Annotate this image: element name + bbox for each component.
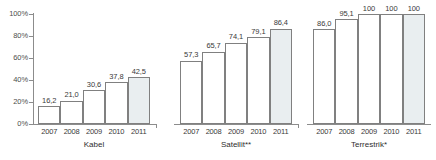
bar[interactable] [202,52,224,124]
bar-value-label: 37,8 [109,73,123,81]
bar-value-label: 16,2 [42,97,56,105]
bar-group-kabel: 16,221,030,637,842,5 [38,14,150,124]
x-axis-tick-label: 2010 [105,126,127,137]
bar-slot: 37,8 [105,14,127,124]
group-caption-terrestrik: Terrestrik* [313,140,425,150]
group-separator-tick [298,124,299,128]
x-axis-tick-labels: 20072008200920102011 [313,126,425,137]
bar[interactable] [60,101,82,124]
bar-slot: 79,1 [247,14,269,124]
bar-value-label: 86,4 [274,19,288,27]
bar-value-label: 100 [385,5,397,13]
bar[interactable] [313,29,335,124]
x-axis-tick-labels: 20072008200920102011 [38,126,150,137]
bar[interactable] [335,19,357,124]
bar-value-label: 65,7 [206,42,220,50]
bar[interactable] [358,14,380,124]
y-axis-tick-mark [29,58,34,59]
x-axis-tick-label: 2007 [180,126,202,137]
bar-slot: 42,5 [128,14,150,124]
bar-chart: 0%20%40%60%80%100% 16,221,030,637,842,52… [0,0,436,160]
x-axis-tick-label: 2010 [247,126,269,137]
x-axis-tick-label: 2008 [335,126,357,137]
bar[interactable] [270,29,292,124]
y-axis-tick-label: 0% [1,120,28,128]
x-axis-tick-label: 2010 [380,126,402,137]
y-axis-tick-mark [29,14,34,15]
x-axis-tick-label: 2008 [202,126,224,137]
bar-value-label: 74,1 [229,33,243,41]
y-axis-tick-label: 80% [1,32,28,40]
group-separator-tick [156,124,157,128]
y-axis-tick-label: 100% [1,10,28,18]
x-axis-line [174,124,298,125]
x-axis-line [307,124,431,125]
bar[interactable] [403,14,425,124]
bar-slot: 86,0 [313,14,335,124]
bar[interactable] [225,43,247,125]
x-axis-tick-label: 2009 [358,126,380,137]
bar-slot: 65,7 [202,14,224,124]
x-axis-tick-label: 2007 [38,126,60,137]
bars: 16,221,030,637,842,5 [38,14,150,124]
bar[interactable] [128,77,150,124]
y-axis-tick-mark [29,36,34,37]
bar-slot: 30,6 [83,14,105,124]
bar[interactable] [105,82,127,124]
x-axis-tick-label: 2008 [60,126,82,137]
bar-slot: 100 [380,14,402,124]
bar-value-label: 21,0 [64,91,78,99]
x-axis-tick-label: 2009 [225,126,247,137]
bar[interactable] [247,37,269,124]
group-caption-kabel: Kabel [38,140,150,150]
bar-slot: 16,2 [38,14,60,124]
bars: 57,365,774,179,186,4 [180,14,292,124]
bar-value-label: 100 [408,5,420,13]
y-axis-tick-label: 60% [1,54,28,62]
x-axis-tick-label: 2011 [270,126,292,137]
bar-value-label: 86,0 [317,20,331,28]
bar[interactable] [38,106,60,124]
y-axis-tick-mark [29,102,34,103]
bar-slot: 21,0 [60,14,82,124]
bar-slot: 100 [403,14,425,124]
x-axis-tick-label: 2009 [83,126,105,137]
x-axis-tick-labels: 20072008200920102011 [180,126,292,137]
bar-slot: 86,4 [270,14,292,124]
x-axis-tick-label: 2007 [313,126,335,137]
bar-group-satellit: 57,365,774,179,186,4 [180,14,292,124]
y-axis-tick-label: 40% [1,76,28,84]
bar-slot: 95,1 [335,14,357,124]
bar-slot: 74,1 [225,14,247,124]
y-axis-labels: 0%20%40%60%80%100% [0,0,28,160]
bar-value-label: 30,6 [87,81,101,89]
x-axis-tick-label: 2011 [403,126,425,137]
group-caption-satellit: Satellit** [180,140,292,150]
bar-value-label: 57,3 [184,51,198,59]
y-axis-tick-label: 20% [1,98,28,106]
x-axis-line [32,124,156,125]
x-axis-tick-label: 2011 [128,126,150,137]
bar-group-terrestrik: 86,095,1100100100 [313,14,425,124]
bar-value-label: 95,1 [339,10,353,18]
bar-value-label: 79,1 [251,28,265,36]
bar-value-label: 42,5 [132,68,146,76]
bar[interactable] [380,14,402,124]
y-axis-tick-mark [29,80,34,81]
bar[interactable] [180,61,202,124]
bar-value-label: 100 [363,5,375,13]
y-axis-line [33,13,34,125]
bar[interactable] [83,90,105,124]
bar-slot: 100 [358,14,380,124]
bars: 86,095,1100100100 [313,14,425,124]
bar-slot: 57,3 [180,14,202,124]
